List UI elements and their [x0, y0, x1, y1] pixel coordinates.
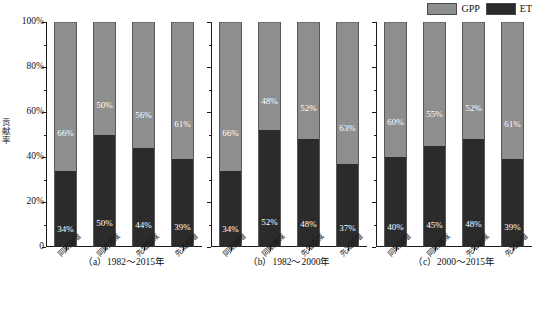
bar-segment-gpp[interactable]: 60%: [384, 22, 407, 157]
bar-c-1[interactable]: 40%60%: [384, 22, 407, 247]
y-axis-line-a: [46, 22, 47, 247]
bar-label-et: 50%: [94, 219, 115, 228]
bar-segment-gpp[interactable]: 55%: [423, 22, 446, 146]
axis-tick-mark: [209, 45, 212, 46]
panel-b: 34%66%同期递增52%48%同期递减48%52%先增后减37%63%先减后增…: [211, 22, 367, 265]
legend-entry-et: ET: [486, 3, 532, 15]
legend-label-et: ET: [520, 4, 532, 14]
bar-segment-et[interactable]: 52%: [258, 130, 281, 247]
axis-tick-mark: [207, 112, 211, 113]
y-axis-tick-0: 0: [4, 242, 44, 252]
bar-label-gpp: 61%: [502, 120, 523, 129]
axis-tick-mark: [209, 135, 212, 136]
bar-segment-gpp[interactable]: 48%: [258, 22, 281, 130]
bar-label-gpp: 63%: [337, 124, 358, 133]
bar-b-1[interactable]: 34%66%: [219, 22, 242, 247]
axis-tick-mark: [374, 135, 377, 136]
bar-label-et: 39%: [502, 223, 523, 232]
bar-b-2[interactable]: 52%48%: [258, 22, 281, 247]
bar-label-et: 34%: [220, 225, 241, 234]
axis-tick-mark: [372, 202, 376, 203]
axis-tick-mark: [44, 45, 47, 46]
axis-tick-mark: [207, 157, 211, 158]
bar-label-gpp: 66%: [220, 129, 241, 138]
axis-tick-mark: [44, 90, 47, 91]
stacked-bar-chart: GPP ET 贡献率 020%40%60%80%100% 34%66%同期递增5…: [0, 0, 536, 316]
axis-tick-mark: [44, 225, 47, 226]
y-axis-tick-60: 60%: [4, 107, 44, 117]
panel-caption-c: （c）2000～2015年: [376, 257, 532, 267]
plot-area-a: 34%66%同期递增50%50%同期递减44%56%先增后减39%61%先减后增: [46, 22, 202, 247]
y-axis-tick-40: 40%: [4, 152, 44, 162]
axis-tick-mark: [209, 225, 212, 226]
axis-tick-mark: [374, 180, 377, 181]
y-axis-tick-labels: 020%40%60%80%100%: [0, 0, 44, 316]
bar-a-4[interactable]: 39%61%: [171, 22, 194, 247]
panel-caption-a: （a）1982～2015年: [46, 257, 202, 267]
bar-b-4[interactable]: 37%63%: [336, 22, 359, 247]
axis-tick-mark: [372, 112, 376, 113]
bar-label-gpp: 60%: [385, 118, 406, 127]
bar-label-et: 39%: [172, 223, 193, 232]
bar-c-4[interactable]: 39%61%: [501, 22, 524, 247]
bar-label-gpp: 48%: [259, 97, 280, 106]
bar-segment-et[interactable]: 45%: [423, 146, 446, 247]
bar-segment-gpp[interactable]: 66%: [219, 22, 242, 171]
panel-caption-b: （b）1982～2000年: [211, 257, 367, 267]
axis-tick-mark: [42, 67, 46, 68]
y-axis-tick-80: 80%: [4, 62, 44, 72]
plot-area-c: 40%60%同期递增45%55%同期递减48%52%先增后减39%61%先减后增: [376, 22, 532, 247]
bar-label-et: 45%: [424, 221, 445, 230]
axis-tick-mark: [372, 157, 376, 158]
bar-segment-gpp[interactable]: 61%: [501, 22, 524, 159]
bar-label-gpp: 61%: [172, 120, 193, 129]
chart-legend: GPP ET: [427, 3, 532, 15]
bar-a-1[interactable]: 34%66%: [54, 22, 77, 247]
bar-label-et: 37%: [337, 224, 358, 233]
bar-segment-gpp[interactable]: 50%: [93, 22, 116, 135]
bar-a-2[interactable]: 50%50%: [93, 22, 116, 247]
bar-label-gpp: 66%: [55, 129, 76, 138]
bar-label-et: 44%: [133, 221, 154, 230]
axis-tick-mark: [374, 90, 377, 91]
bar-segment-gpp[interactable]: 52%: [297, 22, 320, 139]
bar-segment-gpp[interactable]: 52%: [462, 22, 485, 139]
y-axis-tick-100: 100%: [4, 17, 44, 27]
axis-tick-mark: [42, 247, 46, 248]
bar-segment-gpp[interactable]: 61%: [171, 22, 194, 159]
axis-tick-mark: [209, 180, 212, 181]
bar-segment-gpp[interactable]: 56%: [132, 22, 155, 148]
axis-tick-mark: [374, 45, 377, 46]
y-axis-line-b: [211, 22, 212, 247]
axis-tick-mark: [42, 22, 46, 23]
bar-b-3[interactable]: 48%52%: [297, 22, 320, 247]
bar-label-gpp: 50%: [94, 101, 115, 110]
bar-label-gpp: 56%: [133, 111, 154, 120]
bar-segment-et[interactable]: 44%: [132, 148, 155, 247]
axis-tick-mark: [42, 112, 46, 113]
bar-label-gpp: 52%: [463, 104, 484, 113]
bar-segment-et[interactable]: 48%: [462, 139, 485, 247]
bar-segment-gpp[interactable]: 63%: [336, 22, 359, 164]
bar-label-et: 40%: [385, 223, 406, 232]
axis-tick-mark: [42, 202, 46, 203]
legend-label-gpp: GPP: [461, 4, 479, 14]
axis-tick-mark: [209, 90, 212, 91]
axis-tick-mark: [44, 180, 47, 181]
axis-tick-mark: [44, 135, 47, 136]
bar-segment-gpp[interactable]: 66%: [54, 22, 77, 171]
legend-entry-gpp: GPP: [427, 3, 479, 15]
axis-tick-mark: [42, 157, 46, 158]
bar-segment-et[interactable]: 48%: [297, 139, 320, 247]
bar-label-et: 34%: [55, 225, 76, 234]
bar-c-2[interactable]: 45%55%: [423, 22, 446, 247]
bar-segment-et[interactable]: 50%: [93, 135, 116, 248]
axis-tick-mark: [207, 67, 211, 68]
y-axis-line-c: [376, 22, 377, 247]
axis-tick-mark: [207, 202, 211, 203]
bar-a-3[interactable]: 44%56%: [132, 22, 155, 247]
y-axis-tick-20: 20%: [4, 197, 44, 207]
legend-swatch-gpp: [427, 3, 457, 15]
bar-label-et: 52%: [259, 218, 280, 227]
bar-c-3[interactable]: 48%52%: [462, 22, 485, 247]
